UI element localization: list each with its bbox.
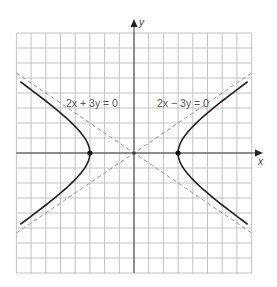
center-point (132, 151, 135, 154)
hyperbola-chart: 2x + 3y = 0 2x − 3y = 0 y x (0, 0, 277, 287)
asymptote-label-plus: 2x + 3y = 0 (66, 97, 118, 109)
vertex-point (176, 150, 181, 155)
y-axis-label: y (138, 17, 145, 28)
x-axis-label: x (257, 156, 264, 167)
vertex-point (87, 150, 92, 155)
asymptote-label-minus: 2x − 3y = 0 (157, 97, 209, 109)
axes (16, 19, 263, 273)
y-axis-arrow-icon (131, 19, 138, 27)
